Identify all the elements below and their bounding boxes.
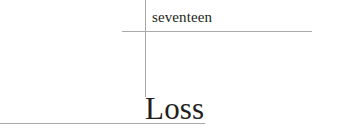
chapter-opening-page: seventeen Loss bbox=[0, 0, 343, 137]
vertical-rule bbox=[145, 0, 146, 97]
top-horizontal-rule bbox=[122, 31, 312, 32]
chapter-number: seventeen bbox=[152, 8, 212, 26]
bottom-horizontal-rule bbox=[0, 123, 205, 124]
chapter-title: Loss bbox=[145, 92, 204, 126]
